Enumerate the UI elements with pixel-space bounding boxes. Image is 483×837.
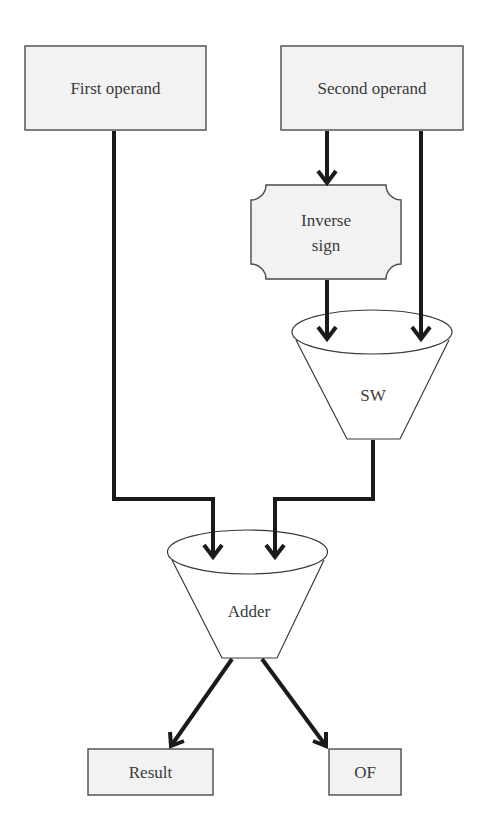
edge-second-operand-to-inverse-sign — [318, 131, 336, 183]
edge-first-operand-to-adder — [114, 131, 222, 557]
second-operand-label: Second operand — [317, 79, 427, 98]
result-label: Result — [129, 763, 173, 782]
edge-adder-to-result — [170, 659, 232, 746]
sw-label: SW — [360, 386, 386, 405]
of-label: OF — [354, 763, 376, 782]
node-second-operand: Second operand — [281, 46, 463, 130]
node-result: Result — [88, 749, 213, 795]
node-inverse-sign: Inverse sign — [251, 185, 401, 279]
edge-second-operand-to-sw — [412, 131, 430, 339]
flowchart-diagram: First operand Second operand Inverse sig… — [0, 0, 483, 837]
adder-label: Adder — [228, 602, 271, 621]
inverse-sign-label-line1: Inverse — [301, 211, 351, 230]
inverse-sign-label-line2: sign — [312, 236, 341, 255]
edge-adder-to-of — [262, 659, 326, 746]
node-of: OF — [329, 749, 401, 795]
node-first-operand: First operand — [25, 46, 206, 130]
first-operand-label: First operand — [70, 79, 161, 98]
edge-inverse-sign-to-sw — [318, 280, 336, 339]
node-adder: Adder — [168, 530, 328, 658]
